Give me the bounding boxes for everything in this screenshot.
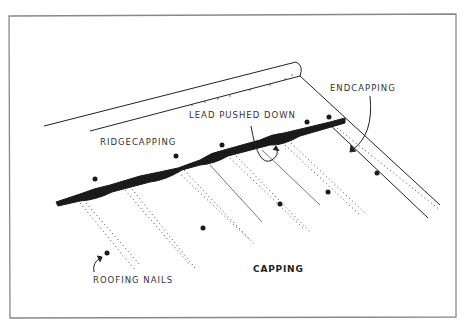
label-ridgecapping: RIDGECAPPING	[100, 137, 176, 147]
endcapping-arrow	[352, 96, 371, 150]
diagram-frame	[9, 15, 221, 153]
diagram-title: CAPPING	[253, 264, 304, 274]
roof-corrugations	[80, 128, 440, 270]
label-roofing-nails: ROOFING NAILS	[93, 275, 173, 285]
label-lead-pushed-down: LEAD PUSHED DOWN	[189, 110, 296, 120]
frame-border	[9, 14, 456, 318]
lead-flashing	[56, 118, 345, 206]
capping-illustration	[0, 0, 469, 326]
label-endcapping: ENDCAPPING	[330, 83, 396, 93]
